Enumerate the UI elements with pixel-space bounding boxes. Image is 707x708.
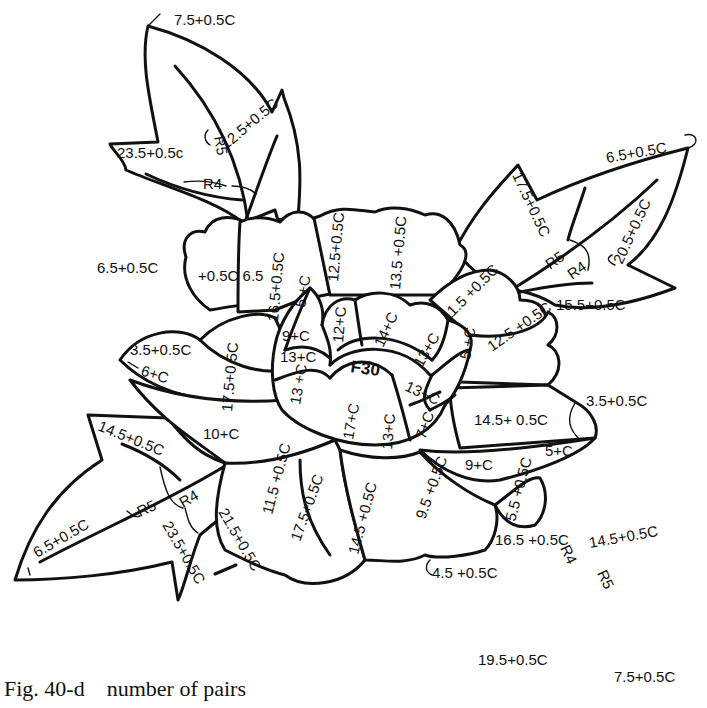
- figure-caption: Fig. 40-d number of pairs: [4, 676, 246, 702]
- label-petal-right-lower: 14.5+ 0.5C: [474, 411, 548, 428]
- label-inner-12c: 12+C: [329, 305, 349, 343]
- label-tl-r5: R5: [211, 135, 231, 157]
- label-petal-right-small: 5+C: [545, 442, 573, 459]
- label-petal-top-left-small: +0.5C 6.5: [198, 267, 263, 284]
- label-inner-13c-center: 13+C: [378, 412, 398, 450]
- label-tl-left-lobe: 23.5+0.5c: [117, 144, 184, 161]
- label-tl-tip: 7.5+0.5C: [174, 11, 235, 28]
- label-br-upper: 14.5+0.5C: [588, 522, 660, 551]
- label-tl-r4: R4: [203, 175, 222, 192]
- flower-line-art: 7.5+0.5C 23.5+0.5c 12.5+0.5C R5 R4 6.5+0…: [0, 0, 707, 708]
- center-label-f30: F30: [349, 357, 381, 380]
- label-br-tip-right: 7.5+0.5C: [614, 668, 675, 685]
- label-tr-bottom: 15.5+0.5C: [556, 296, 626, 313]
- label-inner-9c: 9+C: [282, 327, 310, 344]
- pattern-diagram: 7.5+0.5C 23.5+0.5c 12.5+0.5C R5 R4 6.5+0…: [0, 0, 707, 708]
- label-petal-left-tip: 3.5+0.5C: [130, 341, 191, 358]
- label-br-left-lobe-a: 16.5 +0.5C: [495, 531, 569, 548]
- label-br-tip-left: 19.5+0.5C: [478, 651, 548, 668]
- label-petal-right-band: 9+C: [465, 456, 493, 473]
- label-petal-bottom-tip: 4.5 +0.5C: [432, 564, 498, 581]
- label-br-r5: R5: [594, 567, 618, 592]
- label-tl-base: 6.5+0.5C: [97, 259, 158, 276]
- label-petal-right-tip: 3.5+0.5C: [586, 392, 647, 409]
- label-inner-13c-left: 13+C: [280, 348, 316, 365]
- label-petal-left-lower: 10+C: [203, 425, 239, 442]
